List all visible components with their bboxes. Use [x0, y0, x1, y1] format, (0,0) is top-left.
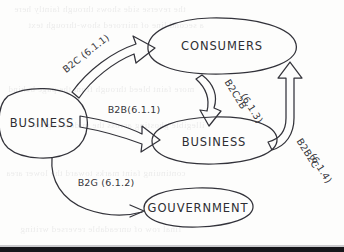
edge-label-b2b: B2B(6.1.1) — [108, 104, 161, 115]
edge-b2b2c-arrow — [268, 62, 302, 150]
edge-b2c-arrow — [72, 36, 155, 98]
sketch-canvas: the reverse side shows through faintly h… — [0, 0, 344, 252]
page-bottom-edge — [0, 247, 344, 252]
edge-label-b2g: B2G (6.1.2) — [78, 177, 135, 188]
node-label-business-left: BUSINESS — [10, 116, 75, 130]
edge-label-b2c: B2C (6.1.1) — [60, 32, 111, 75]
edge-b2b-arrow — [80, 116, 160, 152]
business-model-diagram: BUSINESS CONSUMERS BUSINESS GOUVERNMENT … — [0, 0, 344, 252]
node-label-consumers: CONSUMERS — [181, 39, 263, 53]
node-label-business-right: BUSINESS — [182, 135, 247, 149]
node-label-gouvernment: GOUVERNMENT — [148, 201, 249, 215]
